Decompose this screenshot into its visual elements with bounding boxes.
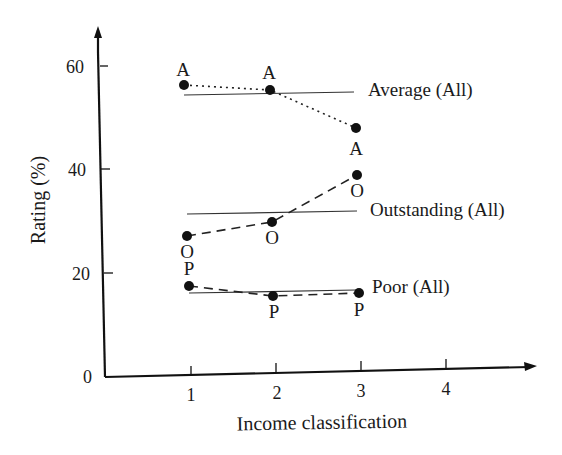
- point-label-o: O: [265, 227, 279, 248]
- line-chart: 60 40 20 0 1 2 3 4 Income classification…: [0, 0, 562, 455]
- x-axis: [105, 359, 537, 377]
- reference-lines: [184, 92, 357, 293]
- x-axis-arrow-icon: [524, 362, 537, 371]
- point-label-p: P: [269, 301, 280, 322]
- point-label-p: P: [184, 258, 195, 279]
- x-tick-3: 3: [357, 381, 366, 401]
- point-label-a: A: [349, 138, 363, 159]
- x-axis-title: Income classification: [236, 410, 407, 435]
- point-label-a: A: [262, 62, 276, 83]
- outstanding-all-label: Outstanding (All): [370, 199, 505, 221]
- y-axis-title: Rating (%): [27, 156, 50, 244]
- series-outstanding: O O O: [180, 170, 364, 262]
- series-average: A A A: [176, 59, 363, 159]
- x-tick-1: 1: [187, 385, 196, 405]
- y-tick-40: 40: [68, 160, 86, 180]
- y-tick-60: 60: [66, 57, 84, 77]
- x-tick-4: 4: [442, 379, 451, 399]
- y-tick-20: 20: [72, 264, 90, 284]
- point-label-p: P: [354, 299, 365, 320]
- average-all-label: Average (All): [368, 79, 473, 101]
- point-label-o: O: [350, 180, 364, 201]
- x-tick-2: 2: [273, 383, 282, 403]
- y-axis: [94, 26, 113, 377]
- outstanding-all-line: [187, 211, 357, 214]
- y-tick-0: 0: [83, 367, 92, 387]
- poor-all-label: Poor (All): [372, 276, 450, 298]
- point-label-a: A: [176, 59, 190, 80]
